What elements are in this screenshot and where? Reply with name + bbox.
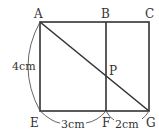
diagram-canvas: A B C E F G P 4cm 3cm 2cm: [0, 0, 159, 134]
label-F: F: [102, 116, 110, 130]
label-P: P: [109, 64, 117, 78]
label-C: C: [145, 7, 154, 21]
geometry-diagram: A B C E F G P 4cm 3cm 2cm: [0, 0, 159, 134]
dimension-FG: 2cm: [115, 118, 139, 131]
arc-EF-left: [40, 111, 60, 123]
label-E: E: [30, 116, 39, 130]
label-B: B: [101, 7, 110, 21]
label-A: A: [33, 7, 43, 21]
segment-AG: [40, 22, 149, 111]
label-G: G: [146, 116, 156, 130]
dimension-EF: 3cm: [61, 118, 85, 131]
dimension-AE: 4cm: [12, 60, 36, 73]
